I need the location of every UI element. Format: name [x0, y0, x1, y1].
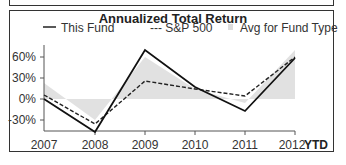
x-label-2008: 2008 [82, 138, 109, 152]
ytd-label: YTD [304, 138, 328, 152]
y-label-0: 0% [2, 92, 36, 106]
legend-avg-marker [228, 24, 233, 30]
legend-sp500: --- S&P 500 [150, 21, 212, 35]
x-label-2007: 2007 [31, 138, 58, 152]
legend-this-fund: This Fund [61, 21, 114, 35]
avg-fund-type-area [44, 50, 295, 120]
x-label-2009: 2009 [132, 138, 159, 152]
x-ticks [95, 131, 295, 135]
y-label-60: 60% [2, 50, 36, 64]
x-label-2011: 2011 [232, 138, 258, 152]
y-ticks [40, 57, 44, 120]
x-label-2010: 2010 [182, 138, 209, 152]
y-label-neg30: -30% [2, 113, 36, 127]
y-label-30: 30% [2, 71, 36, 85]
legend-avg-fund-type: Avg for Fund Type [240, 21, 338, 35]
x-label-2012: 2012 [279, 138, 306, 152]
